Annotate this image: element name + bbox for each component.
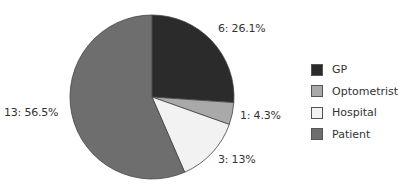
slice-label-gp: 6: 26.1% <box>218 22 266 35</box>
legend-label-hospital: Hospital <box>332 106 377 119</box>
legend-label-patient: Patient <box>332 128 370 141</box>
legend-label-optometrist: Optometrist <box>332 85 398 98</box>
legend-item-optometrist: Optometrist <box>311 81 398 103</box>
legend-item-hospital: Hospital <box>311 102 398 124</box>
slice-label-optometrist: 1: 4.3% <box>240 109 281 122</box>
legend-item-patient: Patient <box>311 124 398 146</box>
slice-label-patient: 13: 56.5% <box>4 106 58 119</box>
legend-swatch-hospital <box>311 107 323 119</box>
chart-legend: GP Optometrist Hospital Patient <box>311 59 398 145</box>
legend-label-gp: GP <box>332 63 347 76</box>
slice-label-hospital: 3: 13% <box>218 153 255 166</box>
legend-swatch-patient <box>311 128 323 140</box>
legend-swatch-gp <box>311 64 323 76</box>
legend-item-gp: GP <box>311 59 398 81</box>
legend-swatch-optometrist <box>311 85 323 97</box>
